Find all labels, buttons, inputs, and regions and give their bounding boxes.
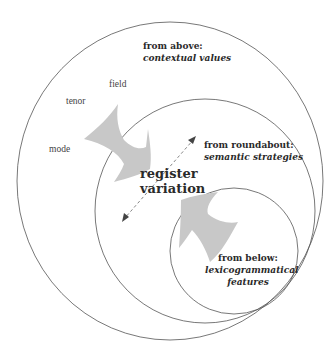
below-heading: from below: <box>205 252 291 264</box>
below-label: from below: lexicogrammatical features <box>205 252 291 288</box>
context-variable-mode: mode <box>49 144 70 154</box>
roundabout-heading: from roundabout: <box>204 139 294 151</box>
below-subtitle-line2: features <box>205 276 291 288</box>
above-heading: from above: <box>143 40 203 52</box>
center-label: register variation <box>140 166 190 196</box>
dashed-arrow-head-up-icon <box>188 136 196 144</box>
roundabout-subtitle: semantic strategies <box>204 151 303 163</box>
above-subtitle: contextual values <box>143 52 231 64</box>
below-subtitle-line1: lexicogrammatical <box>205 264 291 276</box>
center-label-line1: register <box>140 166 190 181</box>
context-variable-tenor: tenor <box>66 96 86 106</box>
center-label-line2: variation <box>140 181 190 196</box>
context-variable-field: field <box>109 79 126 89</box>
